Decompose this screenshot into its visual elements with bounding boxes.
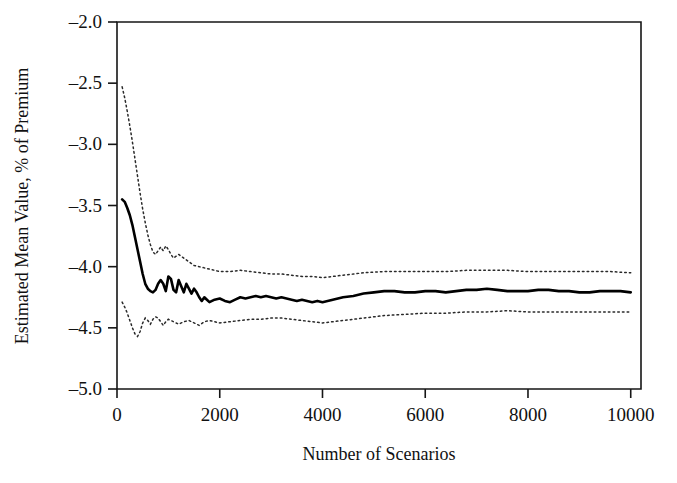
- x-axis-title: Number of Scenarios: [303, 444, 456, 464]
- x-tick-label: 0: [112, 404, 122, 425]
- y-tick-label: –2.5: [68, 72, 102, 93]
- y-tick-label: –5.0: [68, 378, 102, 399]
- x-tick-label: 4000: [303, 404, 341, 425]
- x-tick-label: 8000: [509, 404, 547, 425]
- y-tick-label: –3.5: [68, 195, 102, 216]
- x-tick-label: 6000: [406, 404, 444, 425]
- y-tick-label: –4.0: [68, 256, 102, 277]
- y-axis-title: Estimated Mean Value, % of Premium: [12, 68, 32, 345]
- convergence-chart: 0200040006000800010000 –2.0–2.5–3.0–3.5–…: [0, 0, 677, 483]
- x-tick-label: 2000: [201, 404, 239, 425]
- chart-page: 0200040006000800010000 –2.0–2.5–3.0–3.5–…: [0, 0, 677, 483]
- y-tick-label: –2.0: [68, 11, 102, 32]
- x-tick-label: 10000: [607, 404, 655, 425]
- y-tick-label: –3.0: [68, 133, 102, 154]
- y-tick-label: –4.5: [68, 317, 102, 338]
